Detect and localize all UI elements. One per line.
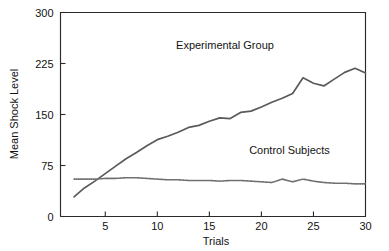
- chart-figure: 075150225300 51015202530 Mean Shock Leve…: [0, 0, 389, 251]
- x-tick-label: 5: [102, 220, 108, 232]
- y-tick-label: 150: [35, 109, 53, 121]
- y-tick-label: 300: [35, 7, 53, 19]
- x-axis-ticks: 51015202530: [102, 212, 371, 232]
- x-tick-label: 20: [255, 220, 267, 232]
- x-axis-title: Trials: [203, 235, 230, 247]
- series-label-experimental-group: Experimental Group: [176, 39, 274, 51]
- x-tick-label: 30: [359, 220, 371, 232]
- series-annotations: Experimental GroupControl Subjects: [176, 39, 330, 156]
- series-label-control-subjects: Control Subjects: [249, 144, 330, 156]
- x-tick-label: 15: [203, 220, 215, 232]
- x-tick-label: 10: [151, 220, 163, 232]
- y-tick-label: 75: [41, 160, 53, 172]
- series-line-experimental-group: [74, 68, 365, 197]
- x-tick-label: 25: [307, 220, 319, 232]
- line-chart: 075150225300 51015202530 Mean Shock Leve…: [0, 0, 389, 251]
- series-line-control-subjects: [74, 178, 365, 184]
- y-axis-title: Mean Shock Level: [8, 69, 20, 160]
- y-tick-label: 225: [35, 58, 53, 70]
- y-tick-label: 0: [47, 211, 53, 223]
- data-series-group: [74, 68, 365, 197]
